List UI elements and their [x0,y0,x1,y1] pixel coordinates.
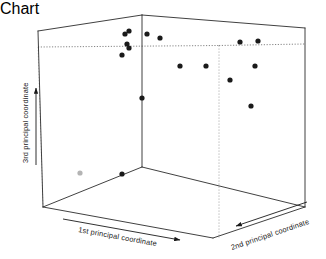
data-point [119,52,124,57]
data-point [126,45,131,50]
y-axis-label: 2nd principal coordinate [230,217,311,252]
z-axis-label: 3rd principal coordinate [21,83,30,163]
data-point [126,28,131,33]
axis-labels: 3rd principal coordinate 1st principal c… [21,83,310,252]
data-point [177,63,182,68]
data-point [252,63,257,68]
data-point [203,63,208,68]
box-hidden-edges [38,44,305,238]
data-point [237,39,242,44]
data-point [227,77,232,82]
scatter-plot-3d: 3rd principal coordinate 1st principal c… [0,0,326,259]
plot-canvas: 3rd principal coordinate 1st principal c… [0,0,326,259]
top-edge-left [38,15,142,31]
data-point [248,103,253,108]
back-top-edge-right-dotted [219,44,305,46]
data-point [77,170,82,175]
data-point [139,95,144,100]
left-vertical-edge [38,31,43,207]
top-edge-right [142,15,305,28]
data-points-layer [77,28,260,176]
data-point [144,31,149,36]
bottom-edge-left-upper [43,167,142,207]
data-point [157,35,162,40]
data-point [255,38,260,43]
box-visible-edges [38,15,305,238]
bottom-edge-right-upper [142,167,305,207]
axis-arrows [36,88,307,240]
data-point [119,171,124,176]
